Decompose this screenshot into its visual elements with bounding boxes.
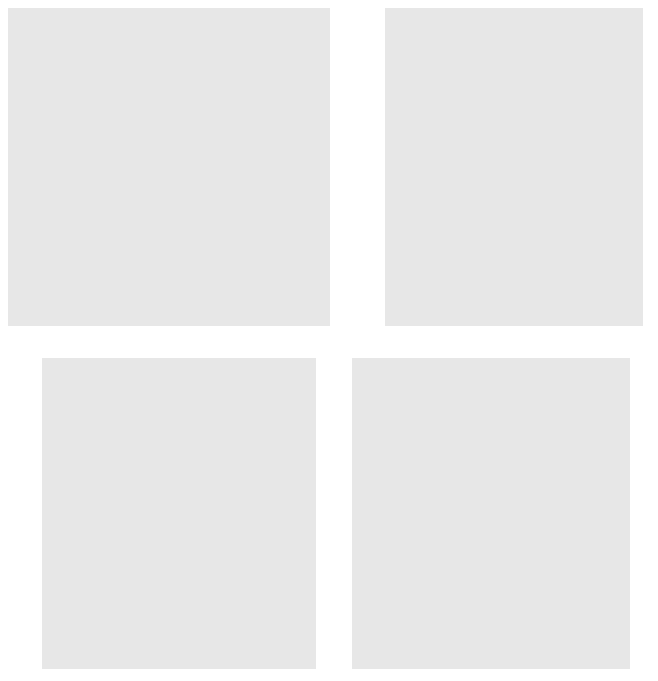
panel-c-healing [42,358,316,669]
panel-d-returns [352,358,630,669]
panel-b-storms [385,8,643,326]
panel-a-manatees [8,8,330,326]
